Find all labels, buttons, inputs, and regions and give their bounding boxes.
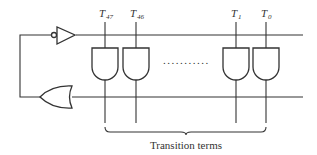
subscript-47: 47 — [106, 13, 114, 21]
inverter-icon — [52, 27, 76, 44]
label-t46: T — [130, 7, 137, 19]
circuit-diagram: T 47 T 46 ........... T 1 T 0 Transition… — [0, 0, 317, 155]
subscript-46: 46 — [137, 13, 145, 21]
brace — [105, 127, 266, 135]
subscript-0: 0 — [268, 13, 272, 21]
label-t1: T — [231, 7, 238, 19]
label-t47: T — [99, 7, 106, 19]
and-gate-t1: T 1 — [223, 7, 249, 123]
and-gate-t0: T 0 — [253, 7, 279, 123]
and-gate-t47: T 47 — [92, 7, 118, 123]
subscript-1: 1 — [238, 13, 242, 21]
and-gate-t46: T 46 — [123, 7, 149, 123]
feedback-wire — [20, 35, 52, 97]
or-gate-icon — [40, 86, 72, 108]
ellipsis: ........... — [163, 54, 210, 66]
caption-transition-terms: Transition terms — [150, 139, 222, 151]
label-t0: T — [261, 7, 268, 19]
